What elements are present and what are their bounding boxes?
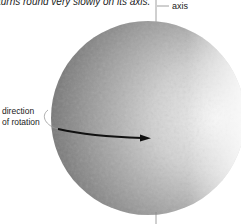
planet-diagram — [0, 0, 241, 224]
planet-highlight — [51, 21, 241, 215]
